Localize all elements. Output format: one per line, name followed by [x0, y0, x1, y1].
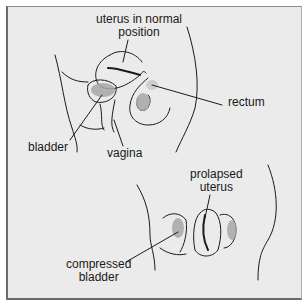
- label-rectum: rectum: [228, 96, 265, 109]
- leader-lines-bottom: [126, 195, 210, 262]
- label-compressed-bladder: compressed bladder: [66, 258, 131, 284]
- label-vagina: vagina: [107, 147, 142, 160]
- label-uterus-normal: uterus in normal position: [96, 13, 182, 39]
- normal-anatomy-drawing: [55, 27, 197, 152]
- label-uterus-normal-line2: position: [96, 26, 182, 39]
- label-prolapsed-line2: uterus: [190, 181, 243, 194]
- label-compressed-line2: bladder: [66, 271, 131, 284]
- label-prolapsed-uterus: prolapsed uterus: [190, 168, 243, 194]
- label-bladder: bladder: [28, 141, 68, 154]
